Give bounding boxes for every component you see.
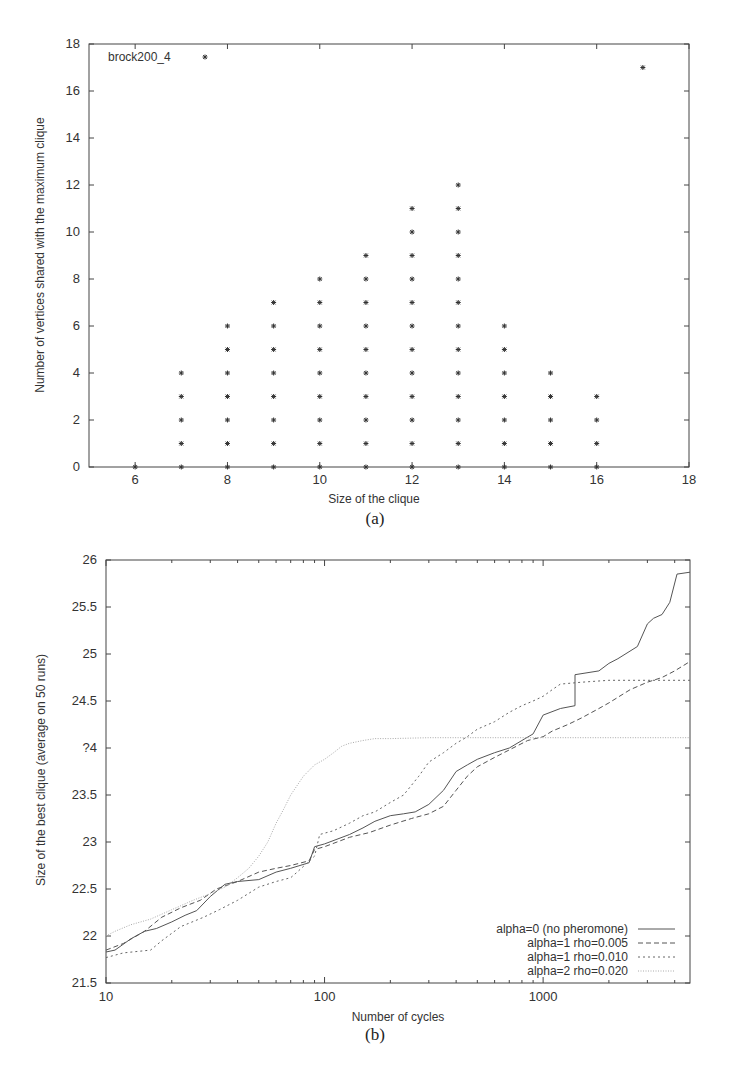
svg-text:alpha=1 rho=0.005: alpha=1 rho=0.005 — [527, 936, 628, 950]
svg-text:22: 22 — [83, 928, 97, 943]
svg-text:14: 14 — [497, 472, 511, 487]
scatter-chart-panel-a: 024681012141618 681012141618 brock200_4 … — [33, 36, 696, 528]
series-lines-b — [106, 572, 690, 957]
svg-text:18: 18 — [66, 36, 80, 51]
panel-caption-b: (b) — [365, 1025, 385, 1044]
svg-text:10: 10 — [99, 989, 113, 1004]
plot-frame-a — [89, 44, 689, 467]
svg-text:16: 16 — [589, 472, 603, 487]
svg-text:21.5: 21.5 — [72, 975, 97, 990]
svg-text:23.5: 23.5 — [72, 787, 97, 802]
svg-text:10: 10 — [66, 224, 80, 239]
svg-text:10: 10 — [313, 472, 327, 487]
panel-caption-a: (a) — [366, 509, 385, 528]
plot-frame-b — [106, 560, 690, 983]
svg-text:12: 12 — [66, 177, 80, 192]
svg-text:6: 6 — [73, 318, 80, 333]
svg-text:23: 23 — [83, 834, 97, 849]
svg-text:1000: 1000 — [529, 989, 558, 1004]
y-axis-ticks-a: 024681012141618 — [66, 36, 689, 474]
asterisk-marker-icon — [203, 55, 208, 60]
svg-text:12: 12 — [405, 472, 419, 487]
svg-text:?4: ?4 — [83, 740, 97, 755]
x-axis-ticks-a: 681012141618 — [132, 44, 697, 487]
svg-text:6: 6 — [132, 472, 139, 487]
svg-text:25: 25 — [83, 646, 97, 661]
svg-text:26: 26 — [83, 552, 97, 567]
y-axis-label-a: Number of vertices shared with the maxim… — [33, 117, 47, 393]
x-axis-label-a: Size of the clique — [328, 492, 420, 506]
svg-text:100: 100 — [314, 989, 336, 1004]
legend-b: alpha=0 (no pheromone)alpha=1 rho=0.005a… — [496, 922, 675, 978]
y-axis-label-b: Size of the best clique (average on 50 r… — [34, 654, 48, 886]
x-axis-label-b: Number of cycles — [352, 1010, 445, 1024]
svg-text:25.5: 25.5 — [72, 599, 97, 614]
svg-text:18: 18 — [682, 472, 696, 487]
svg-text:8: 8 — [73, 271, 80, 286]
line-chart-panel-b: 21.52222.52323.5?424.52525.526 101001000… — [34, 552, 690, 1044]
figure: 024681012141618 681012141618 brock200_4 … — [0, 0, 731, 1078]
svg-text:alpha=2 rho=0.020: alpha=2 rho=0.020 — [527, 964, 628, 978]
svg-text:alpha=0 (no pheromone): alpha=0 (no pheromone) — [496, 922, 628, 936]
scatter-points-a — [133, 65, 646, 470]
svg-text:8: 8 — [224, 472, 231, 487]
svg-text:alpha=1 rho=0.010: alpha=1 rho=0.010 — [527, 950, 628, 964]
svg-text:22.5: 22.5 — [72, 881, 97, 896]
legend-label-a: brock200_4 — [108, 50, 171, 64]
svg-text:14: 14 — [66, 130, 80, 145]
svg-text:2: 2 — [73, 412, 80, 427]
svg-text:16: 16 — [66, 83, 80, 98]
svg-text:0: 0 — [73, 459, 80, 474]
svg-text:4: 4 — [73, 365, 80, 380]
svg-text:24.5: 24.5 — [72, 693, 97, 708]
